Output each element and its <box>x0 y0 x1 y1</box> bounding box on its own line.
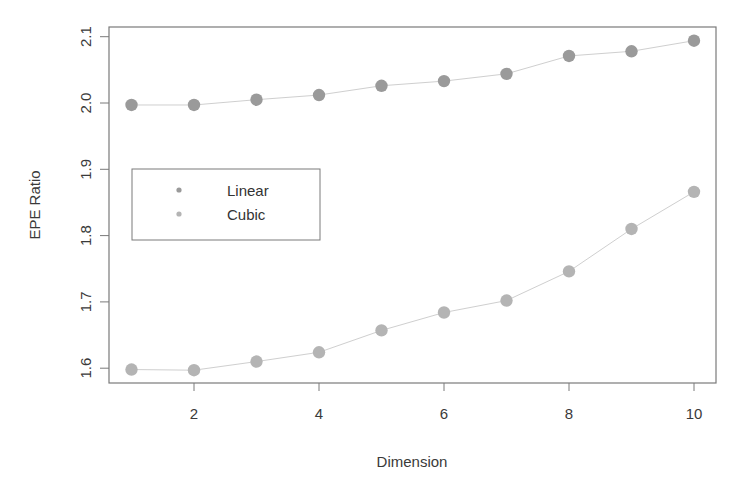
x-tick-label: 2 <box>190 405 198 422</box>
y-axis: 1.61.71.81.92.02.1 <box>77 26 109 378</box>
data-point <box>188 99 200 111</box>
data-point <box>313 89 325 101</box>
x-tick-label: 10 <box>686 405 703 422</box>
x-axis: 246810 <box>190 383 703 422</box>
data-point <box>500 68 512 80</box>
y-axis-title: EPE Ratio <box>26 170 43 239</box>
legend-label-cubic: Cubic <box>227 206 266 223</box>
data-point <box>688 34 700 46</box>
data-point <box>438 75 450 87</box>
legend: Linear Cubic <box>132 169 320 240</box>
y-tick-label: 2.0 <box>77 93 94 114</box>
series-linear <box>125 34 700 111</box>
epe-ratio-chart: 1.61.71.81.92.02.1 246810 EPE Ratio Dime… <box>0 0 736 485</box>
y-tick-label: 1.6 <box>77 358 94 379</box>
data-point <box>438 306 450 318</box>
data-point <box>188 364 200 376</box>
data-point <box>250 355 262 367</box>
x-axis-title: Dimension <box>377 453 448 470</box>
data-point <box>625 45 637 57</box>
legend-marker-linear <box>176 187 181 192</box>
legend-marker-cubic <box>176 211 181 216</box>
data-point <box>625 223 637 235</box>
data-point <box>375 324 387 336</box>
data-point <box>563 50 575 62</box>
y-tick-label: 1.8 <box>77 225 94 246</box>
data-point <box>125 363 137 375</box>
data-point <box>688 186 700 198</box>
data-point <box>250 93 262 105</box>
x-tick-label: 4 <box>315 405 323 422</box>
data-point <box>563 265 575 277</box>
x-tick-label: 8 <box>565 405 573 422</box>
x-tick-label: 6 <box>440 405 448 422</box>
data-point <box>375 80 387 92</box>
y-tick-label: 1.7 <box>77 291 94 312</box>
legend-box <box>132 169 320 240</box>
legend-label-linear: Linear <box>227 182 269 199</box>
series-line <box>132 41 695 105</box>
y-tick-label: 1.9 <box>77 159 94 180</box>
data-point <box>313 346 325 358</box>
data-point <box>125 99 137 111</box>
data-point <box>500 294 512 306</box>
y-tick-label: 2.1 <box>77 26 94 47</box>
